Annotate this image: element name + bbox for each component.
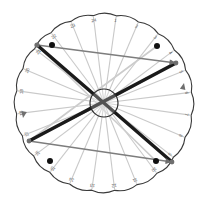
marker-dot-top-left <box>49 42 55 48</box>
circular-dial-diagram: 123456789101112131415161718192021222324 <box>0 0 209 206</box>
node-lower-left <box>27 139 32 144</box>
node-upper-left <box>34 42 39 47</box>
center-hub-group <box>90 89 118 117</box>
marker-dot-bottom-left <box>47 158 53 164</box>
center-hub-circle <box>90 89 118 117</box>
marker-dot-bottom-right <box>153 158 159 164</box>
marker-dot-top-right <box>154 43 160 49</box>
diagram-canvas: 123456789101112131415161718192021222324 <box>0 0 209 206</box>
